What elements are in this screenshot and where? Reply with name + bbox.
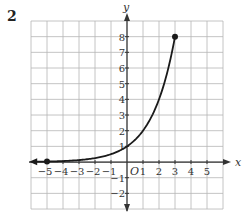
x-tick-label: −3 [70, 166, 85, 177]
x-tick-label: −4 [54, 166, 69, 177]
point-dot [172, 34, 178, 40]
axes [29, 13, 231, 212]
y-axis-label: y [122, 1, 130, 14]
x-axis-label: x [235, 156, 242, 169]
y-tick-label: 2 [119, 126, 125, 137]
y-tick-label: 6 [119, 63, 125, 74]
x-tick-label: 4 [188, 166, 194, 177]
x-tick-label: 1 [140, 166, 146, 177]
x-tick-label: 5 [204, 166, 210, 177]
y-tick-label: 8 [119, 32, 125, 43]
x-tick-label: −5 [38, 166, 53, 177]
x-tick-label: 3 [172, 166, 178, 177]
point-dot [44, 159, 50, 165]
curve-left-arrow-icon [29, 158, 37, 165]
y-axis-arrow-down-icon [124, 204, 130, 212]
x-tick-label: −2 [86, 166, 101, 177]
y-axis-arrow-up-icon [124, 13, 130, 21]
tick-labels: −5−4−3−2−112345−2−112345678Oxy [38, 1, 242, 199]
y-tick-label: 7 [119, 47, 125, 58]
x-tick-label: 2 [156, 166, 162, 177]
x-axis-arrow-icon [223, 159, 231, 165]
exponential-graph: −5−4−3−2−112345−2−112345678Oxy [0, 0, 246, 213]
y-tick-label: −1 [110, 173, 125, 184]
origin-label: O [130, 165, 139, 178]
y-tick-label: 5 [119, 79, 125, 90]
y-tick-label: 4 [119, 94, 125, 105]
y-tick-label: 3 [119, 110, 125, 121]
y-tick-label: −2 [110, 188, 125, 199]
